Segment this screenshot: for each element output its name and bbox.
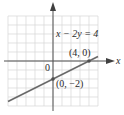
x-axis-arrow-icon	[106, 58, 115, 64]
equation-label: x − 2y = 4	[56, 29, 98, 39]
point-4-0-label: (4, 0)	[69, 48, 91, 58]
coordinate-plane	[0, 0, 124, 115]
point-4-0	[87, 59, 91, 63]
origin-label: 0	[45, 63, 50, 73]
point-0-neg2	[51, 77, 55, 81]
y-axis-arrow-icon	[50, 2, 56, 11]
graph-figure: x − 2y = 4 (4, 0) (0, −2) 0 x	[0, 0, 124, 115]
point-0-neg2-label: (0, −2)	[56, 79, 83, 89]
x-axis-label: x	[116, 56, 120, 66]
